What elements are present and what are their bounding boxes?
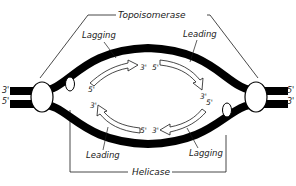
bottom-parental-strand xyxy=(10,104,288,144)
strand-label-bottom-right: Lagging xyxy=(189,148,223,158)
arrow-label-top-left-end: 3' xyxy=(140,63,147,72)
end-right-bottom: 3' xyxy=(287,97,294,106)
arrow-label-bottom-left-start: 5' xyxy=(140,126,147,135)
arrow-label-bottom-right-start: 5' xyxy=(206,98,213,107)
topoisomerase-left-icon xyxy=(31,82,53,112)
strand-label-top-left: Lagging xyxy=(82,30,116,40)
helicase-left-icon xyxy=(66,77,75,91)
strand-label-top-right: Leading xyxy=(183,29,217,39)
end-left-top: 3' xyxy=(2,86,9,95)
replication-bubble-diagram: Topoisomerase Helicase Lagging Leading L… xyxy=(0,0,296,186)
new-strand-arrow-top-left xyxy=(90,60,138,86)
top-parental-strand xyxy=(10,48,288,91)
arrow-label-bottom-right-end: 3' xyxy=(152,126,159,135)
strand-label-bottom-left: Leading xyxy=(86,150,120,160)
helicase-right-icon xyxy=(223,103,232,117)
end-left-bottom: 5' xyxy=(2,97,9,106)
new-strand-arrow-bottom-left xyxy=(97,105,140,133)
new-strand-arrow-top-right xyxy=(160,60,203,90)
arrow-label-bottom-left-end: 3' xyxy=(90,101,97,110)
arrow-label-top-right-start: 5' xyxy=(152,63,159,72)
topoisomerase-right-icon xyxy=(245,82,267,112)
arrow-label-top-left-start: 5' xyxy=(88,85,95,94)
topoisomerase-label: Topoisomerase xyxy=(118,10,186,20)
helicase-label: Helicase xyxy=(132,167,170,177)
end-right-top: 5' xyxy=(287,86,294,95)
